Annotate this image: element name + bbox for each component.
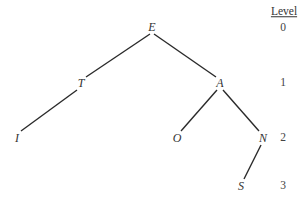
node-T: T <box>78 77 85 89</box>
tree-diagram: E T A I O N S Level 0 1 2 3 <box>0 0 305 205</box>
level-column-header: Level <box>271 6 297 18</box>
node-A: A <box>216 77 223 89</box>
node-E: E <box>148 21 155 33</box>
node-I: I <box>15 132 19 144</box>
edge-T-I <box>21 90 77 131</box>
level-0: 0 <box>280 22 286 34</box>
node-S: S <box>238 180 244 192</box>
edge-A-N <box>223 90 259 131</box>
level-2: 2 <box>280 132 286 144</box>
edge-A-O <box>181 90 217 131</box>
node-O: O <box>173 132 182 144</box>
node-N: N <box>259 132 267 144</box>
edge-E-T <box>86 34 150 77</box>
edge-E-A <box>154 34 216 77</box>
level-3: 3 <box>280 180 286 192</box>
level-1: 1 <box>280 77 286 89</box>
edge-N-S <box>244 145 261 179</box>
